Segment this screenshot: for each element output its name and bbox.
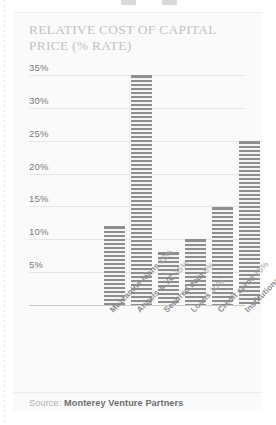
y-axis-tick-label: 35% <box>29 63 49 73</box>
y-axis-tick-label: 15% <box>29 194 49 204</box>
bleed-rule <box>13 12 262 13</box>
y-axis-tick-label: 20% <box>29 162 49 172</box>
source-name: Monterey Venture Partners <box>64 398 183 408</box>
page-gutter-rule <box>4 0 5 425</box>
top-bleed-artifact <box>0 0 276 14</box>
y-axis-tick-label: 25% <box>29 129 49 139</box>
chart-card: Relative cost of capital price (% rate) … <box>13 14 262 411</box>
y-axis-tick-label: 5% <box>29 260 43 270</box>
y-axis-tick-label: 30% <box>29 96 49 106</box>
y-axis-tick-label: 10% <box>29 227 49 237</box>
source-divider <box>13 392 262 393</box>
source-attribution: Source: Monterey Venture Partners <box>29 398 183 408</box>
x-axis-category-labels: Mezzanine loans 12%Angels & VC 35%Secure… <box>29 308 259 390</box>
chart-title: Relative cost of capital price (% rate) <box>29 22 249 54</box>
source-label: Source: <box>29 398 61 408</box>
bleed-mark <box>162 0 177 5</box>
bar-chart-plot: 5%10%15%20%25%30%35% <box>29 62 245 307</box>
bleed-mark <box>121 0 136 5</box>
